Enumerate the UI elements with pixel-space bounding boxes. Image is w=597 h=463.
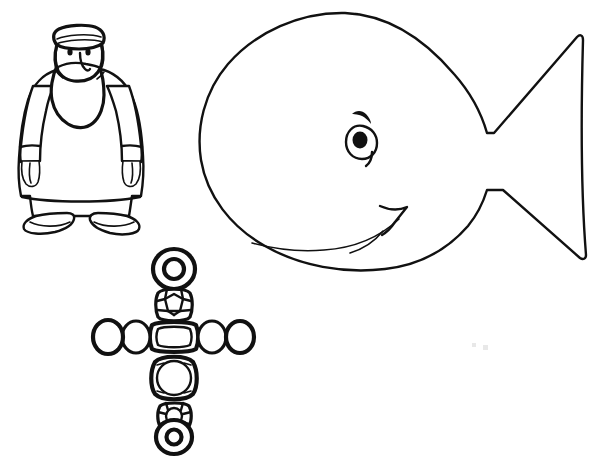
jonah-right-eye bbox=[85, 48, 90, 55]
cross-bead-oval-left-outer bbox=[93, 320, 123, 354]
cross-bead-large-round-inner bbox=[157, 361, 191, 395]
whale-pupil bbox=[353, 132, 368, 149]
cross-bead-center-rect-inner bbox=[157, 327, 192, 348]
cross-bead-ring-top-inner bbox=[164, 259, 184, 279]
line-art-illustration bbox=[0, 0, 597, 463]
jonah-left-eye bbox=[67, 48, 72, 55]
whale-body bbox=[200, 13, 586, 270]
figure-beaded-cross bbox=[93, 249, 254, 454]
cross-bead-oval-left-inner bbox=[122, 321, 150, 353]
figure-whale bbox=[200, 13, 586, 270]
cross-bead-oval-right-inner bbox=[198, 321, 226, 353]
cross-bead-oval-right-outer bbox=[226, 321, 254, 353]
coloring-page-canvas: Jonah and the Whale Coloring Page Bearde… bbox=[0, 0, 597, 463]
cross-bead-ring-bottom-inner bbox=[167, 430, 182, 445]
figure-jonah bbox=[19, 25, 144, 234]
